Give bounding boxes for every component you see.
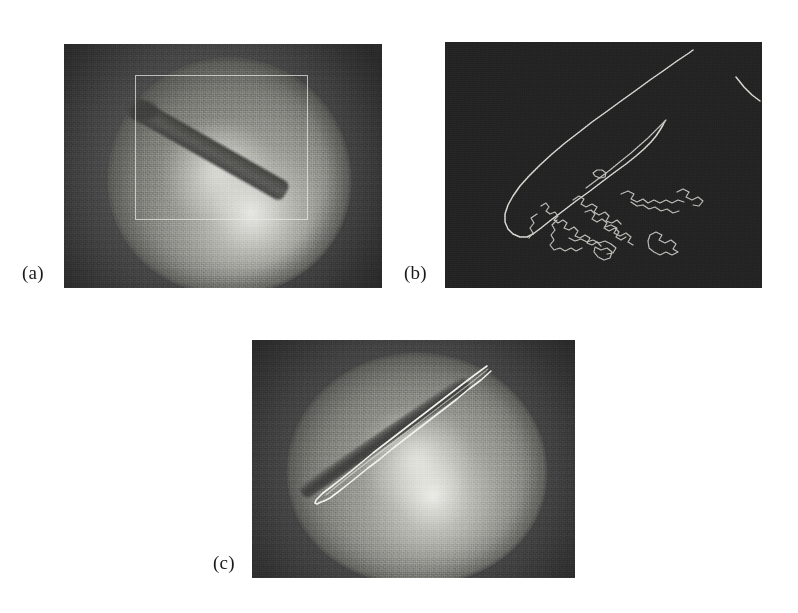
detected-shaft-centerline: [326, 369, 488, 495]
detected-instrument-tip: [315, 493, 324, 504]
noise-contour-10: [677, 189, 703, 206]
noise-contour-2: [573, 196, 621, 224]
corner-edge-fragment: [736, 77, 760, 101]
detected-shaft-upper-boundary: [323, 366, 487, 493]
noise-contour-7: [605, 225, 633, 245]
panel-a-image: [64, 44, 382, 288]
tracking-overlay: [252, 340, 575, 578]
panel-c-tracking-result: [252, 340, 575, 578]
panel-b-label: (b): [404, 262, 427, 284]
shaft-upper-edge: [505, 50, 693, 237]
noise-contour-8: [648, 232, 678, 255]
panel-a-label: (a): [22, 262, 44, 284]
panel-c-label: (c): [213, 552, 235, 574]
noise-contour-9: [569, 238, 616, 254]
noise-contour-6: [631, 202, 679, 213]
panel-a-original-image: [64, 44, 382, 288]
figure-canvas: (a): [0, 0, 798, 613]
panel-b-image: [445, 42, 762, 288]
panel-c-image: [252, 340, 575, 578]
region-of-interest-rectangle: [135, 75, 308, 220]
panel-b-edge-map: [445, 42, 762, 288]
detected-shaft-lower-boundary: [324, 371, 491, 501]
noise-contour-5: [621, 191, 684, 203]
edge-contours: [445, 42, 762, 288]
